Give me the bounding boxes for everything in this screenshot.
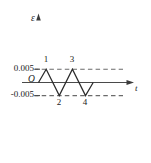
y-axis-label: ε bbox=[31, 14, 35, 24]
y-axis-arrowhead bbox=[36, 14, 41, 21]
strain-time-chart: ε t O 0.005 -0.005 1 2 3 4 bbox=[0, 0, 151, 163]
data-point-label-3: 3 bbox=[67, 55, 77, 64]
data-point-label-1: 1 bbox=[41, 55, 51, 64]
x-axis-arrowhead bbox=[127, 80, 135, 85]
chart-canvas bbox=[0, 0, 151, 163]
data-point-label-4: 4 bbox=[80, 98, 90, 107]
x-axis-label: t bbox=[135, 84, 138, 93]
data-point-label-2: 2 bbox=[54, 98, 64, 107]
y-tick-label-negative: -0.005 bbox=[3, 90, 34, 99]
origin-label: O bbox=[28, 75, 35, 85]
y-tick-label-positive: 0.005 bbox=[7, 64, 34, 73]
